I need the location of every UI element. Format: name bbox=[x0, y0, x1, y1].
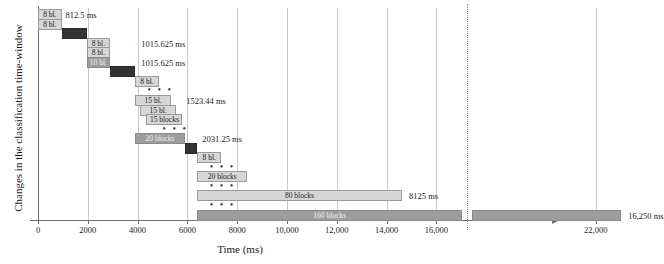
bar: 160 blocks bbox=[197, 210, 462, 221]
gridline bbox=[237, 8, 238, 220]
gridline bbox=[596, 8, 597, 220]
gridline bbox=[436, 8, 437, 220]
value-annotation: 1523.44 ms bbox=[186, 96, 226, 106]
x-axis-tick bbox=[88, 220, 89, 224]
x-axis-tick bbox=[436, 220, 437, 224]
ellipsis-marker: • • • bbox=[210, 202, 236, 208]
value-annotation: 1015.625 ms bbox=[141, 39, 185, 49]
x-axis-tick bbox=[187, 220, 188, 224]
axis-break-line bbox=[467, 4, 468, 230]
x-axis-tick-label: 0 bbox=[36, 225, 40, 235]
gridline bbox=[387, 8, 388, 220]
bar: 10 bl. bbox=[87, 57, 111, 68]
gridline bbox=[287, 8, 288, 220]
bar: 20 blocks bbox=[135, 133, 185, 144]
x-axis-tick-label: 12,000 bbox=[325, 225, 348, 235]
x-axis-tick bbox=[38, 220, 39, 224]
bar bbox=[472, 210, 621, 221]
gridline bbox=[337, 8, 338, 220]
y-axis-title: Changes in the classification time-windo… bbox=[12, 8, 24, 228]
gridline bbox=[187, 8, 188, 220]
value-annotation: 812.5 ms bbox=[65, 10, 96, 20]
x-axis-tick-label: 10,000 bbox=[275, 225, 298, 235]
x-axis-tick-label: 22,000 bbox=[584, 225, 607, 235]
x-axis-tick-label: 6000 bbox=[179, 225, 196, 235]
x-axis-tick bbox=[337, 220, 338, 224]
x-axis-title: Time (ms) bbox=[0, 243, 480, 255]
y-axis-line bbox=[38, 6, 39, 220]
x-axis-tick-label: 16,000 bbox=[425, 225, 448, 235]
ellipsis-marker: • • • bbox=[163, 126, 189, 132]
bar: 8 bl. bbox=[38, 19, 62, 30]
x-axis-tick bbox=[287, 220, 288, 224]
x-axis-tick bbox=[138, 220, 139, 224]
bar bbox=[185, 143, 197, 154]
value-annotation: 16,250 ms bbox=[628, 211, 663, 221]
value-annotation: 8125 ms bbox=[409, 191, 438, 201]
value-annotation: 1015.625 ms bbox=[141, 58, 185, 68]
x-axis-tick bbox=[237, 220, 238, 224]
x-axis-tick-label: 4000 bbox=[129, 225, 146, 235]
bar bbox=[110, 66, 135, 77]
ellipsis-marker: • • • bbox=[210, 164, 236, 170]
x-axis-tick bbox=[387, 220, 388, 224]
x-axis-tick-label: 14,000 bbox=[375, 225, 398, 235]
value-annotation: 2031.25 ms bbox=[202, 134, 242, 144]
bar bbox=[62, 28, 87, 39]
x-axis-tick-label: 8000 bbox=[229, 225, 246, 235]
x-axis-tick-label: 2000 bbox=[79, 225, 96, 235]
ellipsis-marker: • • • bbox=[148, 87, 174, 93]
x-axis-tick bbox=[596, 220, 597, 224]
ellipsis-marker: • • • bbox=[210, 183, 236, 189]
gridline bbox=[138, 8, 139, 220]
